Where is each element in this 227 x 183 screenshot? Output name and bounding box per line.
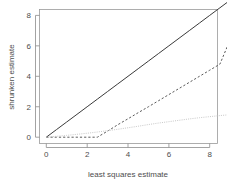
y-axis-title: shrunken estimate (7, 44, 16, 110)
plot-svg: 0 2 4 6 8 0 2 4 6 8 least squares estima… (0, 0, 227, 183)
data-curves (46, 0, 227, 137)
chart-figure: 0 2 4 6 8 0 2 4 6 8 least squares estima… (0, 0, 227, 183)
y-axis: 0 2 4 6 8 (27, 11, 40, 142)
curve-soft-threshold (46, 40, 227, 137)
y-tick-label-0: 0 (27, 133, 32, 142)
curve-identity (46, 0, 227, 137)
y-tick-label-6: 6 (27, 42, 32, 51)
x-tick-label-4: 4 (126, 150, 131, 159)
x-tick-label-2: 2 (85, 150, 90, 159)
y-tick-label-2: 2 (27, 103, 32, 112)
x-tick-label-0: 0 (44, 150, 49, 159)
y-tick-label-4: 4 (27, 72, 32, 81)
curve-ridge (46, 115, 227, 138)
x-axis: 0 2 4 6 8 (44, 144, 212, 160)
y-tick-label-8: 8 (27, 11, 32, 20)
x-axis-title: least squares estimate (88, 170, 169, 179)
x-tick-label-6: 6 (167, 150, 172, 159)
x-tick-label-8: 8 (207, 150, 212, 159)
